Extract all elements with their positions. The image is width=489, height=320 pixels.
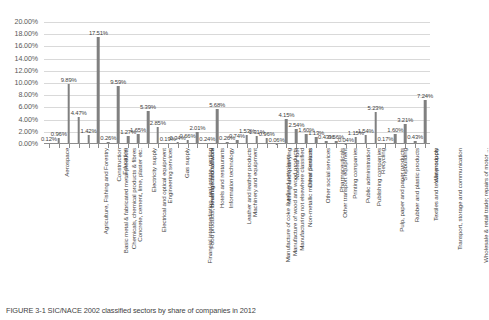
bar [374, 112, 377, 144]
x-axis-label-slot: Pulp, paper and paper products [351, 148, 361, 298]
x-axis-label-slot: Manufacturing not elsewhere classified [242, 148, 252, 298]
bar-group: 1.60% [390, 22, 400, 144]
x-axis-label-slot: Wholesale & retail trade; repairs of mot… [420, 148, 430, 298]
y-axis-tick-label: 2.00% [18, 128, 38, 136]
bar-group: 5.68% [212, 22, 222, 144]
x-axis-label-slot: Pharmaceuticals [311, 148, 321, 298]
bar-group: 1.15% [351, 22, 361, 144]
x-axis-label-slot: Recycling [361, 148, 371, 298]
bar-group: 9.89% [64, 22, 74, 144]
x-axis-label-slot: Information technology [192, 148, 202, 298]
x-axis-label-slot: Public administration [331, 148, 341, 298]
bar-group: 0.43% [321, 22, 331, 144]
bar-group: 1.65% [133, 22, 143, 144]
bar-group: 1.42% [84, 22, 94, 144]
x-axis-label-slot: Other transport equipment [301, 148, 311, 298]
bar [295, 129, 298, 144]
x-axis-label-slot: Hotels and restaurants [183, 148, 193, 298]
bar-group: 0.17% [381, 22, 391, 144]
x-axis-label-slot: Concrete, cement, lime, plaster etc. [84, 148, 94, 298]
bar [285, 119, 288, 144]
bar [216, 109, 219, 144]
x-axis-label-slot: Electrical and optical equipment [113, 148, 123, 298]
x-axis-label-slot: Publishing companies [341, 148, 351, 298]
x-axis-label-slot: Chemicals, chemical products & fibres [74, 148, 84, 298]
y-axis-tick-label: 4.00% [18, 116, 38, 124]
bar-group: 0.24% [202, 22, 212, 144]
x-axis-label-slot: Other Services [282, 148, 292, 298]
bar-series: 0.12%0.96%9.89%4.47%1.42%17.51%0.26%9.59… [44, 22, 430, 144]
x-axis-label-slot: Gas supply [163, 148, 173, 298]
plot-area: 0.12%0.96%9.89%4.47%1.42%17.51%0.26%9.59… [44, 22, 430, 144]
x-axis-label-slot: Machinery and equipment [212, 148, 222, 298]
bar [424, 100, 427, 144]
bar-group: 7.24% [420, 22, 430, 144]
bar-group: 0.06% [272, 22, 282, 144]
y-axis-tick-label: 18.00% [15, 30, 38, 38]
x-axis-label-slot: Nuclear fuel [272, 148, 282, 298]
x-axis-category-label: Wholesale & retail trade; repairs of mot… [482, 148, 489, 263]
bar [67, 84, 70, 144]
bar [147, 111, 150, 144]
figure-caption: FIGURE 3-1 SIC/NACE 2002 classified sect… [6, 306, 430, 315]
bar-group: 0.26% [222, 22, 232, 144]
y-axis-tick-label: 8.00% [18, 91, 38, 99]
x-axis-label-slot: Water supply [410, 148, 420, 298]
x-axis-label-slot: Food products, beverage and tobacco [153, 148, 163, 298]
y-axis-tick-label: 0.00% [18, 140, 38, 148]
bar-group: 2.85% [153, 22, 163, 144]
x-axis-label-slot: Textiles and textile products [390, 148, 400, 298]
bar-group: 0.12% [44, 22, 54, 144]
x-axis-label-slot: Other social services [291, 148, 301, 298]
x-axis-label-slot: Agriculture, Fishing and Forestry [54, 148, 64, 298]
bar-group: 1.31% [252, 22, 262, 144]
bar [157, 127, 160, 144]
bar [97, 37, 100, 144]
bar-group: 1.13% [311, 22, 321, 144]
bar-group: 5.23% [371, 22, 381, 144]
x-axis-label-slot: Mining and quarrying [252, 148, 262, 298]
x-axis-category-label: Transport, storage and communication [456, 148, 463, 250]
y-axis-tick-label: 14.00% [15, 55, 38, 63]
x-axis-label-slot: Manufacture of wood and wood products [232, 148, 242, 298]
bar [404, 124, 407, 144]
x-axis-label-slot: Construction [93, 148, 103, 298]
x-axis-label-slot: Shipbuilding [381, 148, 391, 298]
bar-group: 0.74% [232, 22, 242, 144]
x-axis-label-slot: Rubber and plastic products [371, 148, 381, 298]
y-axis-tick-label: 10.00% [15, 79, 38, 87]
x-axis-label-slot: Transport, storage and communication [400, 148, 410, 298]
bar-group: 0.96% [54, 22, 64, 144]
bar-group: 1.54% [361, 22, 371, 144]
bar-group: 0.34% [173, 22, 183, 144]
bar-group: 1.53% [242, 22, 252, 144]
x-axis-label-slot: Non-metallic mineral products [262, 148, 272, 298]
y-axis-tick-label: 12.00% [15, 67, 38, 75]
y-axis-tick-label: 16.00% [15, 42, 38, 50]
bar-value-label: 7.24% [417, 93, 433, 99]
bar-group: 0.43% [410, 22, 420, 144]
x-axis-label-slot: Leather and leather products [202, 148, 212, 298]
bar-group: 2.54% [291, 22, 301, 144]
bar-group: 0.04% [341, 22, 351, 144]
x-axis-label-slot: Manufacture of coke & refined petroleum … [222, 148, 232, 298]
bar-group: 1.27% [123, 22, 133, 144]
bar-group: 3.21% [400, 22, 410, 144]
bar-group: 0.96% [262, 22, 272, 144]
bar [77, 117, 80, 144]
x-axis-label-slot: Financial intermediation, real estate, r… [143, 148, 153, 298]
bar-group: 1.60% [301, 22, 311, 144]
x-axis-label-slot: Basic metal & fabricated metal products [64, 148, 74, 298]
x-axis-label-slot: Aerospace [44, 148, 54, 298]
bar-group: 0.19% [163, 22, 173, 144]
bar-group: 4.47% [74, 22, 84, 144]
x-axis-label-slot: Health and social work [173, 148, 183, 298]
x-axis-label-slot: Education [103, 148, 113, 298]
x-axis-label-slot: Engineering services [133, 148, 143, 298]
bar-group: 17.51% [93, 22, 103, 144]
bar-group: 9.59% [113, 22, 123, 144]
y-axis-tick-label: 20.00% [15, 18, 38, 26]
y-axis-tick-label: 6.00% [18, 103, 38, 111]
x-axis-labels: AerospaceAgriculture, Fishing and Forest… [44, 148, 430, 298]
